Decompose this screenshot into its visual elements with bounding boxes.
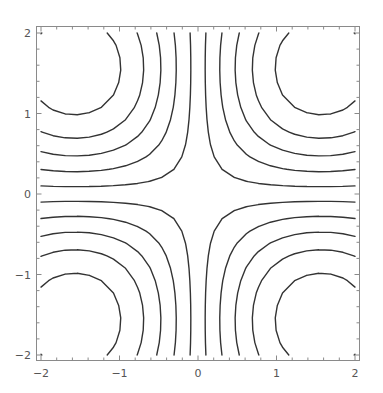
y-tick-label: −2 bbox=[15, 349, 31, 362]
contour-line-level-9 bbox=[41, 33, 355, 355]
contour-line-level-2 bbox=[41, 33, 355, 355]
contour-line-level-4 bbox=[41, 33, 355, 355]
x-tick-label: 1 bbox=[273, 367, 280, 380]
y-axis-tick-labels: −2−1012 bbox=[15, 27, 31, 362]
contour-line-level-3 bbox=[41, 33, 355, 355]
y-tick-label: 0 bbox=[24, 188, 31, 201]
contour-plot: −2−1012 −2−1012 bbox=[0, 0, 383, 393]
axis-ticks bbox=[37, 27, 360, 361]
contour-line-level-8 bbox=[41, 33, 355, 355]
x-tick-label: 0 bbox=[195, 367, 202, 380]
y-tick-label: 2 bbox=[24, 27, 31, 40]
contour-lines bbox=[41, 33, 355, 355]
x-tick-label: 2 bbox=[352, 367, 359, 380]
contour-line-level-5 bbox=[41, 33, 355, 355]
y-tick-label: −1 bbox=[15, 269, 31, 282]
contour-line-level-6 bbox=[41, 33, 355, 355]
x-axis-tick-labels: −2−1012 bbox=[33, 367, 359, 380]
contour-line-level-0 bbox=[41, 33, 355, 355]
contour-line-level-7 bbox=[41, 33, 355, 355]
x-tick-label: −2 bbox=[33, 367, 49, 380]
contour-line-level-1 bbox=[41, 33, 355, 355]
x-tick-label: −1 bbox=[111, 367, 127, 380]
y-tick-label: 1 bbox=[24, 108, 31, 121]
plot-frame bbox=[37, 27, 360, 361]
